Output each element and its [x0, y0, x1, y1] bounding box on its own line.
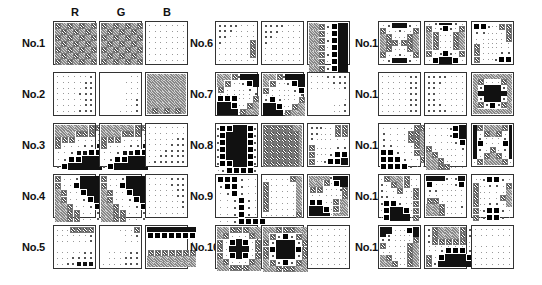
grid-cell [383, 207, 390, 214]
big-glyph-icon [493, 176, 500, 183]
tiny-glyph-icon [486, 235, 487, 236]
dot-glyph-icon [439, 76, 441, 78]
tiny-glyph-icon [149, 213, 150, 214]
tiny-glyph-icon [155, 207, 156, 208]
big-glyph-icon [459, 247, 466, 254]
tiny-glyph-icon [442, 201, 443, 202]
tiny-glyph-icon [339, 105, 340, 106]
tiny-glyph-icon [498, 264, 499, 265]
tiny-glyph-icon [282, 215, 283, 216]
grid-cell [134, 108, 140, 114]
dot-glyph-icon [110, 159, 112, 161]
dot-glyph-icon [502, 217, 504, 219]
grid-cell [240, 132, 247, 139]
tiny-glyph-icon [395, 252, 396, 253]
tiny-glyph-icon [317, 148, 318, 149]
grid-cell [181, 108, 186, 114]
dot-glyph-icon [85, 82, 87, 84]
grid-cell [387, 149, 394, 156]
dot-glyph-icon [136, 110, 138, 112]
tiny-glyph-icon [435, 28, 436, 29]
dot-glyph-icon [79, 110, 81, 112]
panel-no13-r [378, 123, 421, 167]
dot-glyph-icon [415, 87, 417, 89]
tiny-glyph-icon [393, 197, 394, 198]
panel-no6-b [307, 21, 350, 65]
tiny-glyph-icon [480, 204, 481, 205]
grid-cell [246, 109, 253, 115]
grid-cell [269, 87, 276, 94]
dot-glyph-icon [383, 133, 385, 135]
grid-cell [219, 167, 226, 174]
tiny-glyph-icon [122, 206, 123, 207]
grid-cell [226, 160, 233, 167]
tiny-glyph-icon [160, 60, 161, 61]
tiny-glyph-icon [435, 250, 436, 251]
tiny-glyph-icon [486, 138, 487, 139]
tiny-glyph-icon [339, 111, 340, 112]
big-glyph-icon [189, 232, 196, 239]
tiny-glyph-icon [481, 258, 482, 259]
tiny-glyph-icon [503, 252, 504, 253]
tiny-glyph-icon [328, 246, 329, 247]
tiny-glyph-icon [339, 229, 340, 230]
tiny-glyph-icon [155, 190, 156, 191]
dot-glyph-icon [327, 76, 329, 78]
big-glyph-icon [161, 232, 168, 239]
grid-cell [445, 247, 452, 254]
grid-cell [245, 190, 252, 197]
grid-cell [507, 102, 512, 109]
dot-glyph-icon [136, 235, 138, 237]
grid-cell [298, 80, 305, 87]
tiny-glyph-icon [311, 88, 312, 89]
grid-cell [88, 163, 95, 170]
tiny-glyph-icon [393, 191, 394, 192]
tiny-glyph-icon [226, 249, 227, 250]
tiny-glyph-icon [321, 148, 322, 149]
grid-cell [245, 176, 252, 183]
dot-glyph-icon [327, 54, 329, 56]
dot-glyph-icon [428, 76, 430, 78]
tiny-glyph-icon [322, 241, 323, 242]
tiny-glyph-icon [136, 219, 137, 220]
tiny-glyph-icon [411, 146, 412, 147]
tiny-glyph-icon [155, 144, 156, 145]
tiny-glyph-icon [399, 76, 400, 77]
dot-glyph-icon [130, 263, 132, 265]
tiny-glyph-icon [382, 88, 383, 89]
tiny-glyph-icon [404, 152, 405, 153]
tiny-glyph-icon [116, 185, 117, 186]
dot-glyph-icon [415, 104, 417, 106]
tiny-glyph-icon [183, 25, 184, 26]
tiny-glyph-icon [79, 252, 80, 253]
grid-cell [224, 176, 231, 183]
tiny-glyph-icon [76, 206, 77, 207]
tiny-glyph-icon [345, 235, 346, 236]
big-glyph-icon [245, 218, 252, 225]
tiny-glyph-icon [405, 88, 406, 89]
tiny-glyph-icon [155, 48, 156, 49]
dot-glyph-icon [136, 206, 138, 208]
dot-glyph-icon [136, 104, 138, 106]
grid-cell [238, 218, 245, 225]
tiny-glyph-icon [282, 179, 283, 180]
tiny-glyph-icon [62, 258, 63, 259]
tiny-glyph-icon [450, 41, 451, 42]
big-glyph-icon [240, 167, 247, 174]
grid-cell [291, 110, 298, 116]
tiny-glyph-icon [149, 184, 150, 185]
big-glyph-icon [394, 156, 401, 163]
grid-cell [161, 232, 168, 239]
tiny-glyph-icon [492, 264, 493, 265]
big-glyph-icon [119, 182, 126, 189]
grid-cell [233, 146, 240, 153]
tiny-glyph-icon [445, 105, 446, 106]
tiny-glyph-icon [287, 203, 288, 204]
tiny-glyph-icon [276, 179, 277, 180]
big-glyph-icon [341, 151, 348, 158]
tiny-glyph-icon [155, 213, 156, 214]
tiny-glyph-icon [104, 159, 105, 160]
tiny-glyph-icon [429, 250, 430, 251]
tiny-glyph-icon [496, 192, 497, 193]
dot-glyph-icon [97, 218, 99, 220]
